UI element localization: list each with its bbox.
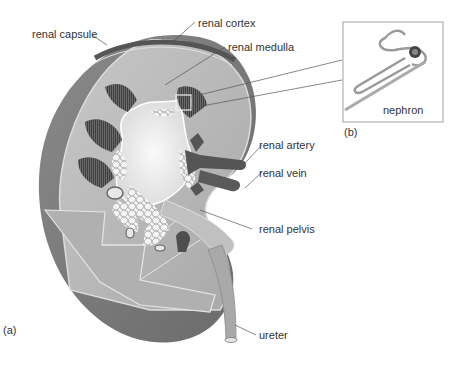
label-renal-vein: renal vein: [259, 167, 307, 179]
label-renal-medulla: renal medulla: [228, 41, 294, 53]
label-renal-pelvis: renal pelvis: [259, 223, 315, 235]
label-nephron: nephron: [383, 104, 423, 116]
label-renal-cortex: renal cortex: [198, 17, 255, 29]
label-renal-artery: renal artery: [259, 139, 315, 151]
kidney-diagram: renal capsule renal cortex renal medulla…: [0, 0, 464, 366]
panel-b-tag: (b): [344, 126, 357, 138]
label-renal-capsule: renal capsule: [32, 28, 97, 40]
label-ureter: ureter: [259, 329, 288, 341]
kidney-illustration: [0, 0, 464, 366]
panel-a-tag: (a): [3, 324, 16, 336]
